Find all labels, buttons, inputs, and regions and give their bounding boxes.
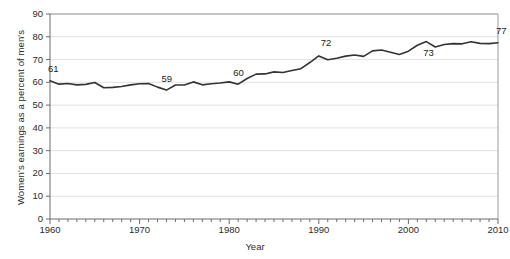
x-axis-title: Year (0, 241, 510, 252)
x-axis-tick-label: 2000 (386, 224, 430, 235)
x-axis-tick-label: 2010 (476, 224, 510, 235)
x-axis-tick-label: 1960 (28, 224, 72, 235)
y-axis-tick-label: 40 (17, 123, 43, 133)
y-axis-title: Women's earnings as a percent of men's (15, 18, 26, 218)
data-point-label: 59 (161, 74, 172, 84)
data-point-label: 77 (496, 26, 507, 36)
line-chart: Women's earnings as a percent of men's Y… (0, 0, 510, 259)
y-axis-tick-label: 90 (17, 9, 43, 19)
y-axis-tick-label: 30 (17, 146, 43, 156)
y-axis-tick-label: 60 (17, 77, 43, 87)
data-point-label: 73 (423, 48, 434, 58)
y-axis-tick-label: 50 (17, 100, 43, 110)
x-axis-tick-label: 1970 (118, 224, 162, 235)
y-axis-tick-label: 80 (17, 32, 43, 42)
data-point-label: 60 (233, 68, 244, 78)
y-axis-tick-label: 0 (17, 214, 43, 224)
y-axis-tick-label: 10 (17, 191, 43, 201)
x-axis-tick-label: 1980 (207, 224, 251, 235)
x-axis-tick-label: 1990 (297, 224, 341, 235)
data-point-label: 72 (321, 38, 332, 48)
data-point-label: 61 (48, 64, 59, 74)
y-axis-tick-label: 70 (17, 55, 43, 65)
y-axis-tick-label: 20 (17, 168, 43, 178)
plot-area (0, 0, 510, 259)
